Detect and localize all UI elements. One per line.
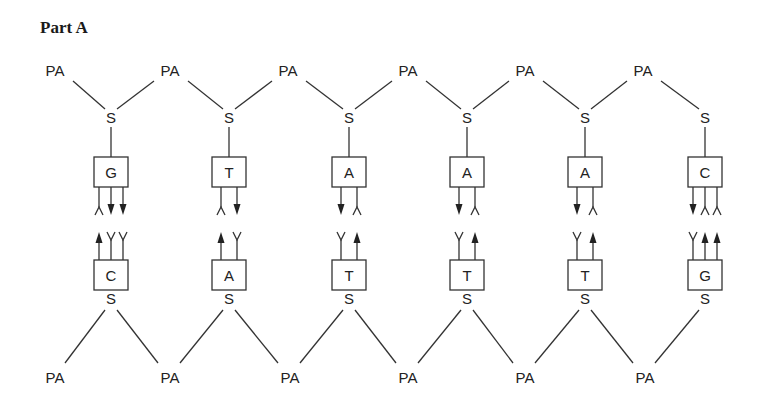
- acceptor-fork-icon: [217, 207, 225, 215]
- arrow-down-icon: [574, 204, 581, 215]
- arrow-down-icon: [690, 204, 697, 215]
- acceptor-fork-icon: [471, 207, 479, 215]
- base-label-top: C: [700, 164, 711, 181]
- acceptor-fork-icon: [233, 232, 241, 240]
- backbone-line: [65, 310, 105, 363]
- backbone-line: [73, 81, 105, 109]
- arrow-down-icon: [456, 204, 463, 215]
- acceptor-fork-icon: [713, 207, 721, 215]
- sugar-label-top: S: [224, 109, 234, 126]
- backbone-line: [300, 310, 343, 363]
- backbone-line: [235, 81, 272, 109]
- phosphate-label-top: PA: [46, 62, 65, 79]
- base-label-top: A: [462, 164, 472, 181]
- phosphate-label-bottom: PA: [161, 369, 180, 386]
- arrow-up-icon: [354, 232, 361, 243]
- base-pair-column: [655, 81, 722, 363]
- acceptor-fork-icon: [701, 207, 709, 215]
- acceptor-fork-icon: [573, 232, 581, 240]
- phosphate-label-bottom: PA: [516, 369, 535, 386]
- acceptor-fork-icon: [689, 232, 697, 240]
- phosphate-label-bottom: PA: [399, 369, 418, 386]
- arrow-up-icon: [714, 232, 721, 243]
- base-label-top: G: [105, 164, 117, 181]
- backbone-line: [355, 310, 396, 363]
- phosphate-label-bottom: PA: [281, 369, 300, 386]
- base-label-top: A: [580, 164, 590, 181]
- backbone-line: [661, 81, 699, 109]
- sugar-label-top: S: [106, 109, 116, 126]
- base-label-bottom: G: [699, 267, 711, 284]
- arrow-down-icon: [108, 204, 115, 215]
- phosphate-label-top: PA: [399, 62, 418, 79]
- arrow-up-icon: [590, 232, 597, 243]
- backbone-line: [473, 310, 513, 363]
- arrow-up-icon: [96, 232, 103, 243]
- base-label-top: A: [344, 164, 354, 181]
- sugar-label-bottom: S: [462, 290, 472, 307]
- acceptor-fork-icon: [107, 232, 115, 240]
- backbone-line: [180, 310, 223, 363]
- phosphate-label-bottom: PA: [636, 369, 655, 386]
- sugar-label-top: S: [344, 109, 354, 126]
- arrow-up-icon: [702, 232, 709, 243]
- arrow-up-icon: [472, 232, 479, 243]
- acceptor-fork-icon: [455, 232, 463, 240]
- acceptor-fork-icon: [337, 232, 345, 240]
- backbone-line: [235, 310, 278, 363]
- backbone-line: [355, 81, 392, 109]
- backbone-line: [117, 81, 154, 109]
- acceptor-fork-icon: [353, 207, 361, 215]
- backbone-line: [473, 81, 509, 109]
- base-label-bottom: T: [344, 267, 353, 284]
- backbone-line: [543, 81, 579, 109]
- dna-base-pair-diagram: PAPAPAPAPAPAPAPAPAPAPAPASGSCSTSASASTSAST…: [0, 0, 762, 397]
- backbone-line: [418, 310, 461, 363]
- backbone-line: [188, 81, 223, 109]
- base-label-bottom: T: [462, 267, 471, 284]
- phosphate-label-top: PA: [634, 62, 653, 79]
- sugar-label-bottom: S: [580, 290, 590, 307]
- acceptor-fork-icon: [119, 232, 127, 240]
- arrow-down-icon: [234, 204, 241, 215]
- acceptor-fork-icon: [95, 207, 103, 215]
- phosphate-label-top: PA: [516, 62, 535, 79]
- arrow-down-icon: [120, 204, 127, 215]
- base-label-bottom: A: [224, 267, 234, 284]
- backbone-line: [306, 81, 343, 109]
- backbone-line: [591, 81, 627, 109]
- phosphate-label-top: PA: [279, 62, 298, 79]
- sugar-label-bottom: S: [106, 290, 116, 307]
- backbone-line: [426, 81, 461, 109]
- base-label-top: T: [224, 164, 233, 181]
- sugar-label-bottom: S: [224, 290, 234, 307]
- backbone-line: [591, 310, 633, 363]
- backbone-line: [655, 310, 699, 363]
- arrow-up-icon: [218, 232, 225, 243]
- backbone-line: [117, 310, 158, 363]
- arrow-down-icon: [338, 204, 345, 215]
- base-label-bottom: C: [106, 267, 117, 284]
- sugar-label-top: S: [700, 109, 710, 126]
- sugar-label-bottom: S: [700, 290, 710, 307]
- acceptor-fork-icon: [589, 207, 597, 215]
- phosphate-label-top: PA: [161, 62, 180, 79]
- backbone-line: [535, 310, 579, 363]
- base-label-bottom: T: [580, 267, 589, 284]
- sugar-label-top: S: [580, 109, 590, 126]
- sugar-label-top: S: [462, 109, 472, 126]
- sugar-label-bottom: S: [344, 290, 354, 307]
- phosphate-label-bottom: PA: [46, 369, 65, 386]
